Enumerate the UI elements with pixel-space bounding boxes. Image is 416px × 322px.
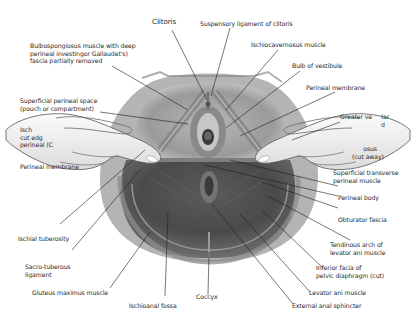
- label-external-anal-sphincter: External anal sphincter: [292, 302, 361, 310]
- label-inferior-fascia: Inferior facia of pelvic diaphragm (cut): [316, 264, 384, 279]
- label-clitoris: Clitoris: [152, 18, 176, 26]
- label-bulbospongiosus: Bulbospongiosus muscle with deep perinea…: [30, 42, 136, 65]
- label-ischiocavernosus-cut-away: osus (cut away): [352, 145, 384, 160]
- label-perineal-body: Perineal body: [338, 194, 379, 202]
- label-levator-ani: Levator ani muscle: [309, 289, 366, 297]
- label-suspensory-ligament: Suspensory ligament of clitoris: [200, 20, 293, 28]
- label-ischio-cut-edge: Isch cut edg perineal (C: [20, 126, 53, 149]
- label-obturator-fascia: Obturator fascia: [338, 216, 387, 224]
- label-perineal-membrane-right: Perineal membrane: [306, 84, 365, 92]
- label-tendinous-arch: Tendinous arch of levator ani muscle: [330, 241, 385, 256]
- perineum-diagram: Clitoris Suspensory ligament of clitoris…: [0, 0, 416, 322]
- label-gluteus-maximus: Gluteus maximus muscle: [32, 289, 108, 297]
- label-coccyx: Coccyx: [196, 293, 218, 301]
- label-greater-vestibular-gland: Greater ve lar d: [340, 113, 389, 128]
- label-ischioanal-fossa: Ischioanal fossa: [129, 302, 177, 310]
- label-sacrotuberous-ligament: Sacro-tuberous ligament: [25, 263, 71, 278]
- label-superficial-transverse-perineal: Superficial transverse perineal muscle: [333, 169, 398, 184]
- label-ischiocavernosus: Ischiocavernosus muscle: [251, 41, 326, 49]
- label-bulb-of-vestibule: Bulb of vestibule: [292, 62, 342, 70]
- label-superficial-perineal-space: Superficial perineal space (pouch or com…: [20, 97, 97, 112]
- label-ischial-tuberosity: Ischial tuberosity: [18, 235, 69, 243]
- label-perineal-membrane-left: Perineal membrane: [20, 163, 79, 171]
- urogenital-triangle: [136, 83, 285, 159]
